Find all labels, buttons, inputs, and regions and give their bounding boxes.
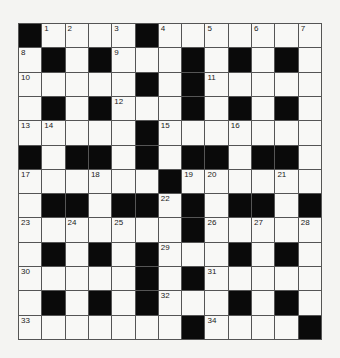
answer-cell[interactable] [136,218,158,241]
answer-cell[interactable] [89,194,111,217]
answer-cell[interactable] [159,267,181,290]
answer-cell[interactable]: 4 [159,24,181,47]
answer-cell[interactable] [299,243,321,266]
answer-cell[interactable] [299,291,321,314]
answer-cell[interactable]: 7 [299,24,321,47]
answer-cell[interactable] [205,97,227,120]
answer-cell[interactable]: 11 [205,73,227,96]
answer-cell[interactable] [89,73,111,96]
answer-cell[interactable] [136,316,158,339]
answer-cell[interactable] [205,48,227,71]
answer-cell[interactable] [275,194,297,217]
answer-cell[interactable] [89,267,111,290]
answer-cell[interactable]: 24 [66,218,88,241]
answer-cell[interactable] [252,291,274,314]
answer-cell[interactable] [182,121,204,144]
answer-cell[interactable]: 28 [299,218,321,241]
answer-cell[interactable]: 25 [112,218,134,241]
answer-cell[interactable]: 21 [275,170,297,193]
answer-cell[interactable] [229,218,251,241]
answer-cell[interactable] [159,316,181,339]
answer-cell[interactable] [252,170,274,193]
answer-cell[interactable] [112,121,134,144]
answer-cell[interactable] [66,170,88,193]
answer-cell[interactable] [299,97,321,120]
answer-cell[interactable] [205,121,227,144]
answer-cell[interactable]: 13 [19,121,41,144]
answer-cell[interactable] [252,316,274,339]
answer-cell[interactable] [159,218,181,241]
answer-cell[interactable] [42,218,64,241]
answer-cell[interactable]: 15 [159,121,181,144]
answer-cell[interactable] [229,316,251,339]
answer-cell[interactable] [19,291,41,314]
answer-cell[interactable] [299,146,321,169]
answer-cell[interactable]: 33 [19,316,41,339]
answer-cell[interactable] [205,291,227,314]
answer-cell[interactable] [229,146,251,169]
answer-cell[interactable]: 19 [182,170,204,193]
answer-cell[interactable]: 6 [252,24,274,47]
answer-cell[interactable] [66,316,88,339]
answer-cell[interactable] [42,170,64,193]
answer-cell[interactable] [112,243,134,266]
answer-cell[interactable] [19,97,41,120]
answer-cell[interactable] [159,48,181,71]
answer-cell[interactable] [229,170,251,193]
answer-cell[interactable]: 26 [205,218,227,241]
answer-cell[interactable] [252,97,274,120]
answer-cell[interactable] [42,146,64,169]
answer-cell[interactable]: 20 [205,170,227,193]
answer-cell[interactable]: 23 [19,218,41,241]
answer-cell[interactable] [19,194,41,217]
answer-cell[interactable] [136,97,158,120]
answer-cell[interactable] [275,267,297,290]
answer-cell[interactable]: 22 [159,194,181,217]
answer-cell[interactable] [112,267,134,290]
answer-cell[interactable] [112,73,134,96]
answer-cell[interactable]: 2 [66,24,88,47]
answer-cell[interactable] [275,121,297,144]
answer-cell[interactable]: 31 [205,267,227,290]
answer-cell[interactable] [205,243,227,266]
answer-cell[interactable] [112,170,134,193]
answer-cell[interactable] [182,24,204,47]
answer-cell[interactable]: 10 [19,73,41,96]
answer-cell[interactable] [299,48,321,71]
answer-cell[interactable] [229,73,251,96]
answer-cell[interactable]: 14 [42,121,64,144]
answer-cell[interactable] [229,267,251,290]
answer-cell[interactable]: 8 [19,48,41,71]
answer-cell[interactable] [42,316,64,339]
answer-cell[interactable]: 3 [112,24,134,47]
answer-cell[interactable] [275,218,297,241]
answer-cell[interactable] [252,48,274,71]
answer-cell[interactable] [112,291,134,314]
answer-cell[interactable] [205,194,227,217]
answer-cell[interactable] [66,267,88,290]
answer-cell[interactable] [136,170,158,193]
answer-cell[interactable]: 30 [19,267,41,290]
answer-cell[interactable] [66,73,88,96]
answer-cell[interactable]: 16 [229,121,251,144]
answer-cell[interactable] [66,48,88,71]
answer-cell[interactable] [42,267,64,290]
answer-cell[interactable] [252,73,274,96]
answer-cell[interactable] [275,316,297,339]
answer-cell[interactable]: 9 [112,48,134,71]
answer-cell[interactable] [89,24,111,47]
answer-cell[interactable] [299,73,321,96]
answer-cell[interactable] [89,316,111,339]
answer-cell[interactable] [275,73,297,96]
answer-cell[interactable] [159,73,181,96]
answer-cell[interactable] [159,97,181,120]
answer-cell[interactable]: 17 [19,170,41,193]
answer-cell[interactable]: 18 [89,170,111,193]
answer-cell[interactable]: 32 [159,291,181,314]
answer-cell[interactable]: 5 [205,24,227,47]
answer-cell[interactable] [252,121,274,144]
answer-cell[interactable] [112,316,134,339]
answer-cell[interactable] [229,24,251,47]
answer-cell[interactable] [89,218,111,241]
answer-cell[interactable] [42,73,64,96]
